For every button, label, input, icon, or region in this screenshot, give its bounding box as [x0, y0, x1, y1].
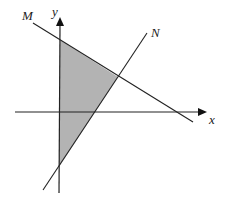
line-m	[33, 23, 193, 122]
x-axis-arrow-icon	[198, 108, 207, 116]
coordinate-diagram: M y N x	[0, 0, 225, 207]
diagram-canvas: M y N x	[0, 0, 225, 207]
shaded-region	[59, 40, 118, 167]
label-m: M	[21, 8, 34, 23]
label-y: y	[50, 4, 58, 19]
y-axis	[59, 25, 60, 193]
label-n: N	[150, 25, 161, 40]
label-x: x	[208, 112, 215, 127]
